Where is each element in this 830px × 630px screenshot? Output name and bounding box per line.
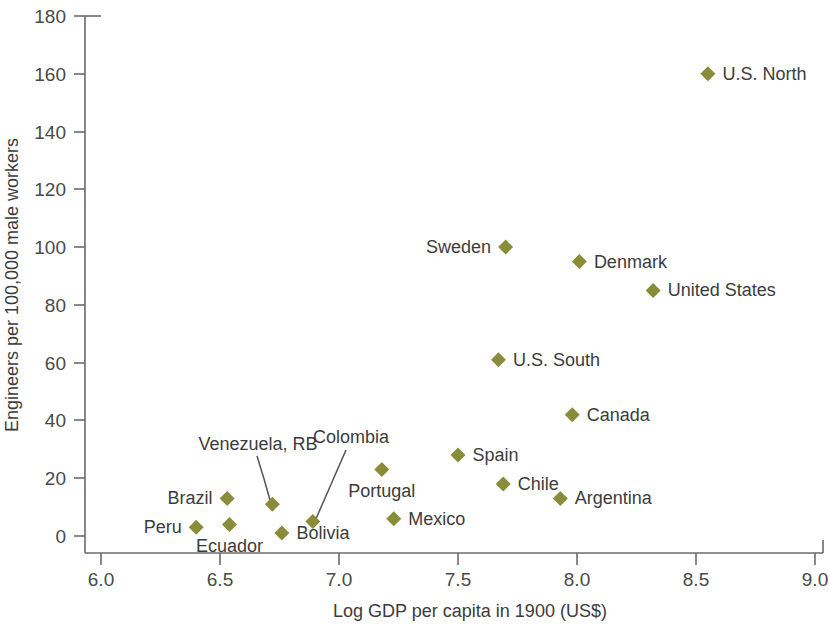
diamond-marker-icon xyxy=(451,448,466,463)
x-tick-label-8-5: 8.5 xyxy=(683,569,709,590)
y-axis-ticks xyxy=(74,16,85,536)
chart-canvas: 180 160 140 120 100 80 60 40 20 0 6.0 6.… xyxy=(0,0,830,630)
point-label-brazil: Brazil xyxy=(168,488,213,508)
y-tick-label-60: 60 xyxy=(45,353,66,374)
diamond-marker-icon xyxy=(374,462,389,477)
data-point-portugal[interactable]: Portugal xyxy=(348,462,415,501)
point-label-bolivia: Bolivia xyxy=(296,523,350,543)
diamond-marker-icon xyxy=(498,240,513,255)
diamond-marker-icon xyxy=(189,520,204,535)
x-tick-label-9-0: 9.0 xyxy=(802,569,828,590)
point-label-spain: Spain xyxy=(473,445,519,465)
diamond-marker-icon xyxy=(565,407,580,422)
venezuela-leader-line xyxy=(257,456,270,500)
diamond-marker-icon xyxy=(700,66,715,81)
data-point-bolivia[interactable]: Bolivia xyxy=(274,523,350,543)
point-label-u-s-south: U.S. South xyxy=(513,350,600,370)
x-tick-labels: 6.0 6.5 7.0 7.5 8.0 8.5 9.0 xyxy=(88,569,828,590)
diamond-marker-icon xyxy=(274,526,289,541)
y-tick-label-180: 180 xyxy=(34,6,66,27)
data-point-united-states[interactable]: United States xyxy=(646,280,776,300)
y-tick-label-100: 100 xyxy=(34,237,66,258)
point-label-ecuador: Ecuador xyxy=(196,536,263,556)
point-label-peru: Peru xyxy=(144,517,182,537)
annotation-leader-lines xyxy=(257,450,346,521)
diamond-marker-icon xyxy=(265,497,280,512)
data-point-brazil[interactable]: Brazil xyxy=(168,488,235,508)
data-point-sweden[interactable]: Sweden xyxy=(426,237,513,257)
x-tick-label-6-5: 6.5 xyxy=(207,569,233,590)
x-tick-label-6-0: 6.0 xyxy=(88,569,114,590)
x-tick-label-7-5: 7.5 xyxy=(445,569,471,590)
x-tick-label-8-0: 8.0 xyxy=(564,569,590,590)
y-tick-label-40: 40 xyxy=(45,410,66,431)
scatter-chart-figure: 180 160 140 120 100 80 60 40 20 0 6.0 6.… xyxy=(0,0,830,630)
point-label-colombia: Colombia xyxy=(313,427,390,447)
data-point-spain[interactable]: Spain xyxy=(451,445,519,465)
data-point-canada[interactable]: Canada xyxy=(565,405,651,425)
y-tick-label-0: 0 xyxy=(55,526,66,547)
data-point-chile[interactable]: Chile xyxy=(496,474,559,494)
diamond-marker-icon xyxy=(491,352,506,367)
y-tick-label-160: 160 xyxy=(34,64,66,85)
data-series-layer: U.S. NorthSwedenDenmarkUnited StatesU.S.… xyxy=(144,64,807,556)
point-label-canada: Canada xyxy=(587,405,651,425)
data-point-denmark[interactable]: Denmark xyxy=(572,252,668,272)
point-label-denmark: Denmark xyxy=(594,252,668,272)
data-point-u-s-north[interactable]: U.S. North xyxy=(700,64,806,84)
y-axis-title: Engineers per 100,000 male workers xyxy=(2,138,22,432)
y-tick-labels: 180 160 140 120 100 80 60 40 20 0 xyxy=(34,6,66,547)
data-point-u-s-south[interactable]: U.S. South xyxy=(491,350,600,370)
point-label-portugal: Portugal xyxy=(348,481,415,501)
data-point-argentina[interactable]: Argentina xyxy=(553,488,653,508)
point-label-chile: Chile xyxy=(518,474,559,494)
diamond-marker-icon xyxy=(222,517,237,532)
data-point-venezuela-rb[interactable]: Venezuela, RB xyxy=(198,434,317,512)
point-label-argentina: Argentina xyxy=(575,488,653,508)
diamond-marker-icon xyxy=(220,491,235,506)
diamond-marker-icon xyxy=(386,511,401,526)
point-label-sweden: Sweden xyxy=(426,237,491,257)
y-tick-label-20: 20 xyxy=(45,468,66,489)
colombia-leader-line xyxy=(315,450,346,521)
x-tick-label-7-0: 7.0 xyxy=(326,569,352,590)
point-label-mexico: Mexico xyxy=(408,509,465,529)
x-axis-title: Log GDP per capita in 1900 (US$) xyxy=(333,601,607,621)
diamond-marker-icon xyxy=(496,477,511,492)
point-label-venezuela-rb: Venezuela, RB xyxy=(198,434,317,454)
point-label-united-states: United States xyxy=(668,280,776,300)
data-point-ecuador[interactable]: Ecuador xyxy=(196,517,263,556)
point-label-u-s-north: U.S. North xyxy=(722,64,806,84)
y-tick-label-120: 120 xyxy=(34,179,66,200)
y-tick-label-80: 80 xyxy=(45,295,66,316)
diamond-marker-icon xyxy=(646,283,661,298)
data-point-mexico[interactable]: Mexico xyxy=(386,509,465,529)
y-tick-label-140: 140 xyxy=(34,122,66,143)
data-point-peru[interactable]: Peru xyxy=(144,517,204,537)
diamond-marker-icon xyxy=(572,254,587,269)
